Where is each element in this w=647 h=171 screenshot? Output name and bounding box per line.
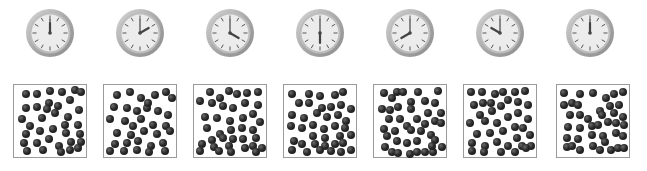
particle-dot: [33, 90, 41, 98]
particle-dot: [437, 109, 445, 117]
particle-dot: [77, 88, 85, 96]
particle-dot: [196, 147, 204, 155]
particle-dot: [258, 144, 266, 152]
particle-dot: [407, 126, 415, 134]
particle-dot: [470, 101, 478, 109]
particle-dot: [513, 134, 521, 142]
particle-dot: [213, 114, 221, 122]
particle-dot: [574, 101, 582, 109]
particle-box: [463, 84, 537, 158]
particle-dot: [620, 121, 628, 129]
particle-dot: [438, 143, 446, 151]
particle-dot: [331, 91, 339, 99]
particle-dot: [327, 103, 335, 111]
particle-dot: [133, 107, 141, 115]
particle-dot: [588, 131, 596, 139]
particle-dot: [66, 146, 74, 154]
particle-dot: [110, 103, 118, 111]
particle-dot: [303, 148, 311, 156]
particle-dot: [113, 129, 121, 137]
particle-dot: [407, 98, 415, 106]
particle-dot: [615, 101, 623, 109]
particle-dot: [58, 88, 66, 96]
particle-box: [373, 84, 447, 158]
particle-dot: [61, 121, 69, 129]
particle-dot: [298, 124, 306, 132]
particle-dot: [225, 87, 233, 95]
particle-dot: [64, 113, 72, 121]
particle-dot: [619, 132, 627, 140]
particle-dot: [66, 96, 74, 104]
particle-dot: [321, 134, 329, 142]
particle-box: [13, 84, 87, 158]
particle-dot: [514, 98, 522, 106]
particle-dot: [468, 139, 476, 147]
particle-dot: [563, 134, 571, 142]
particle-dot: [243, 89, 251, 97]
particle-dot: [601, 138, 609, 146]
particle-dot: [393, 137, 401, 145]
particle-dot: [386, 106, 394, 114]
particle-dot: [290, 137, 298, 145]
particle-dot: [219, 134, 227, 142]
particle-dot: [126, 88, 134, 96]
particle-dot: [524, 115, 532, 123]
particle-dot: [488, 107, 496, 115]
particle-dot: [407, 105, 415, 113]
particle-dot: [151, 91, 159, 99]
particle-dot: [413, 115, 421, 123]
particle-dot: [499, 88, 507, 96]
particle-dot: [127, 131, 135, 139]
particle-dot: [589, 89, 597, 97]
particle-dot: [602, 94, 610, 102]
particle-dot: [43, 105, 51, 113]
particle-dot: [478, 88, 486, 96]
particle-dot: [46, 87, 54, 95]
particle-dot: [134, 137, 142, 145]
clock-icon: [475, 8, 525, 58]
particle-dot: [39, 146, 47, 154]
particle-dot: [74, 144, 82, 152]
particle-dot: [497, 148, 505, 156]
particle-dot: [227, 148, 235, 156]
particle-box: [556, 84, 630, 158]
clock-icon: [115, 8, 165, 58]
particle-dot: [36, 127, 44, 135]
particle-dot: [394, 149, 402, 157]
clock-icon: [295, 8, 345, 58]
particle-dot: [619, 88, 627, 96]
particle-dot: [145, 148, 153, 156]
clock-icon: [205, 8, 255, 58]
particle-dot: [216, 94, 224, 102]
particle-dot: [154, 107, 162, 115]
particle-dot: [576, 124, 584, 132]
particle-dot: [249, 126, 257, 134]
particle-dot: [491, 90, 499, 98]
particle-dot: [168, 94, 176, 102]
particle-dot: [239, 114, 247, 122]
particle-dot: [133, 146, 141, 154]
particle-dot: [287, 122, 295, 130]
particle-dot: [568, 142, 576, 150]
particle-dot: [313, 109, 321, 117]
particle-dot: [316, 146, 324, 154]
particle-dot: [473, 130, 481, 138]
particle-dot: [620, 144, 628, 152]
clock-icon: [565, 8, 615, 58]
particle-dot: [23, 147, 31, 155]
particle-dot: [610, 109, 618, 117]
particle-dot: [337, 148, 345, 156]
particle-dot: [149, 121, 157, 129]
particle-dot: [256, 118, 264, 126]
particle-dot: [140, 127, 148, 135]
particle-dot: [309, 132, 317, 140]
particle-dot: [391, 127, 399, 135]
particle-dot: [421, 97, 429, 105]
particle-dot: [504, 96, 512, 104]
particle-dot: [560, 101, 568, 109]
particle-dot: [239, 135, 247, 143]
particle-dot: [431, 99, 439, 107]
particle-dot: [57, 148, 65, 156]
clock-icon: [25, 8, 75, 58]
particle-dot: [288, 146, 296, 154]
